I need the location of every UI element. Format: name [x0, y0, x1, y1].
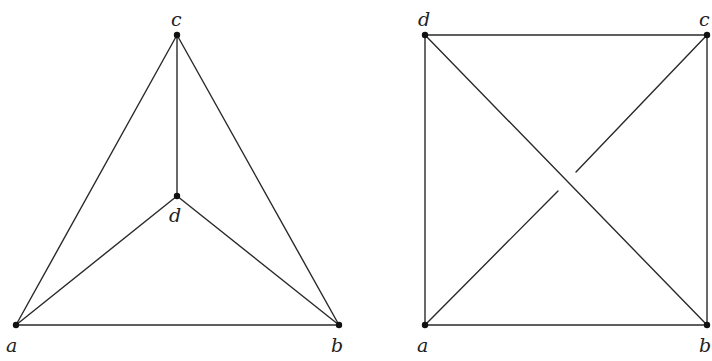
vertex-label-d: d — [169, 204, 181, 226]
vertex-a — [422, 322, 428, 328]
edge-a-c-upper-segment — [576, 35, 707, 172]
graph-canvas: abcd abcd — [0, 0, 712, 361]
vertex-label-c: c — [699, 8, 710, 30]
vertex-label-b: b — [331, 334, 343, 356]
vertex-label-a: a — [417, 334, 428, 356]
edge-a-c — [16, 35, 177, 325]
left-diagram-planar-k4: abcd — [6, 8, 343, 356]
right-diagram-square-k4: abcd — [417, 8, 711, 356]
vertex-d — [174, 193, 180, 199]
vertex-label-b: b — [699, 334, 711, 356]
edge-a-c-lower-segment — [425, 191, 558, 325]
vertex-a — [13, 322, 19, 328]
vertex-b — [704, 322, 710, 328]
edge-b-d — [177, 196, 339, 325]
vertex-label-a: a — [6, 334, 17, 356]
vertex-label-d: d — [418, 8, 430, 30]
edge-b-c — [177, 35, 339, 325]
vertex-d — [422, 32, 428, 38]
edge-a-d — [16, 196, 177, 325]
vertex-b — [336, 322, 342, 328]
vertex-c — [174, 32, 180, 38]
vertex-label-c: c — [171, 8, 182, 30]
vertex-c — [704, 32, 710, 38]
